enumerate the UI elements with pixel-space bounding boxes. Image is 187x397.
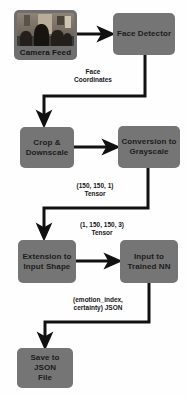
node-conversion-grayscale[interactable]: Conversion to Grayscale: [118, 126, 180, 168]
node-label-conversion-grayscale: Conversion to Grayscale: [120, 137, 178, 157]
flowchart-diagram: Camera Feed Face Detector Crop & Downsca…: [0, 0, 187, 397]
node-face-detector[interactable]: Face Detector: [113, 13, 175, 55]
node-label-extension-input-shape: Extension to Input Shape: [20, 252, 74, 272]
photo-picture-frame-a: [57, 16, 64, 25]
camera-feed-thumbnail: [17, 13, 74, 46]
photo-person-silhouette: [63, 33, 73, 46]
node-label-crop-downscale: Crop & Downscale: [22, 138, 72, 158]
node-label-camera-feed: Camera Feed: [17, 48, 74, 57]
node-crop-downscale[interactable]: Crop & Downscale: [20, 127, 74, 168]
photo-person-silhouette: [34, 24, 49, 46]
photo-person-silhouette: [20, 31, 31, 46]
edge-label-tensor-150-150-1: (150, 150, 1) Tensor: [56, 182, 134, 198]
photo-person-silhouette: [51, 30, 64, 46]
node-save-json-file[interactable]: Save to JSON File: [17, 348, 73, 388]
node-label-input-trained-nn: Input to Trained NN: [122, 252, 176, 272]
edge-label-face-coordinates: Face Coordinates: [60, 68, 126, 84]
edge-label-emotion-json: (emotion_index, certainty) JSON: [52, 296, 144, 312]
edge-label-tensor-1-150-150-3: (1, 150, 150, 3) Tensor: [62, 221, 142, 237]
photo-lamp-region: [24, 15, 29, 26]
photo-picture-frame-b: [65, 16, 70, 28]
node-camera-feed[interactable]: Camera Feed: [14, 10, 77, 60]
edge-nn-to-save: [45, 283, 149, 341]
node-label-save-json-file: Save to JSON File: [19, 353, 71, 383]
node-extension-input-shape[interactable]: Extension to Input Shape: [18, 240, 76, 283]
node-label-face-detector: Face Detector: [115, 29, 173, 39]
node-input-trained-nn[interactable]: Input to Trained NN: [120, 240, 178, 283]
edge-detector-to-crop: [44, 55, 145, 119]
